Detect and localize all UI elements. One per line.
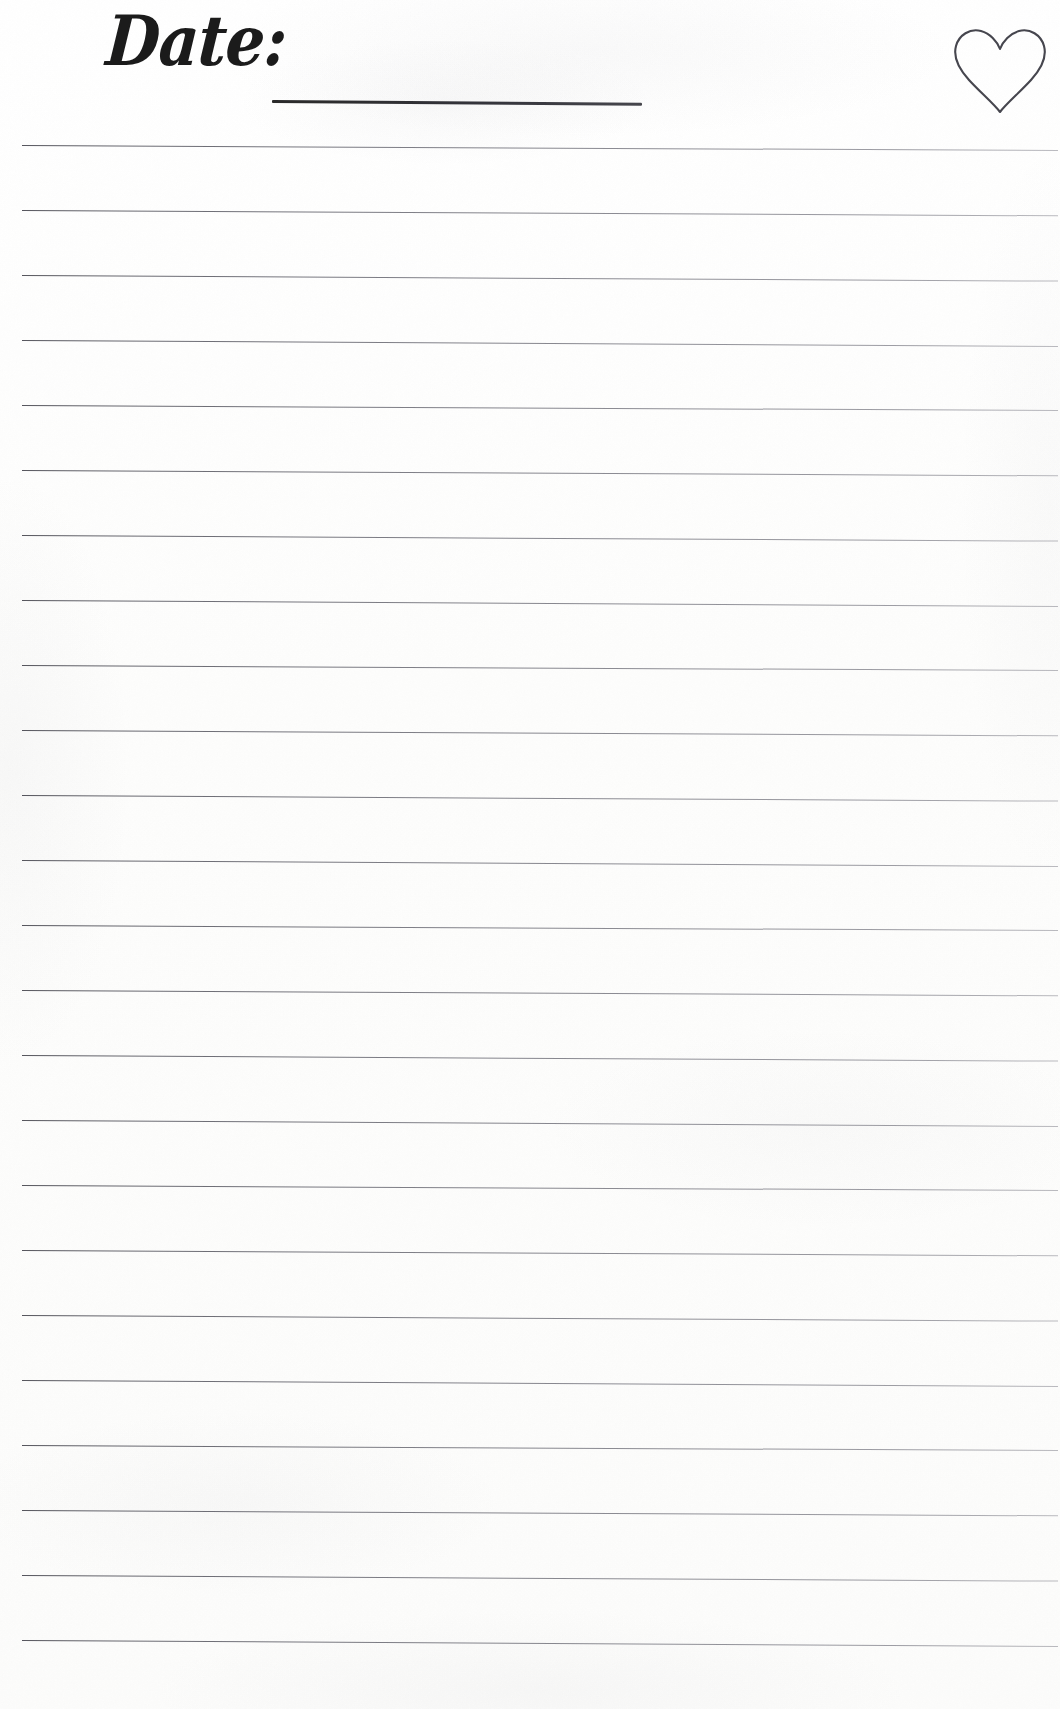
- writing-line[interactable]: [22, 1120, 1058, 1127]
- writing-line[interactable]: [22, 1510, 1058, 1516]
- writing-line[interactable]: [22, 860, 1058, 867]
- writing-line[interactable]: [22, 340, 1058, 347]
- writing-line[interactable]: [22, 210, 1058, 216]
- ruled-lines: [0, 0, 1060, 1709]
- writing-line[interactable]: [22, 990, 1058, 996]
- writing-line[interactable]: [22, 470, 1058, 476]
- writing-line[interactable]: [22, 1055, 1058, 1062]
- writing-line[interactable]: [22, 275, 1058, 282]
- writing-line[interactable]: [22, 145, 1058, 151]
- writing-line[interactable]: [22, 535, 1058, 542]
- writing-line[interactable]: [22, 730, 1058, 736]
- writing-line[interactable]: [22, 925, 1058, 931]
- writing-line[interactable]: [22, 1315, 1058, 1322]
- writing-line[interactable]: [22, 1185, 1058, 1191]
- writing-line[interactable]: [22, 665, 1058, 671]
- writing-line[interactable]: [22, 1640, 1058, 1647]
- writing-line[interactable]: [22, 795, 1058, 802]
- writing-line[interactable]: [22, 405, 1058, 411]
- journal-page: Date:: [0, 0, 1060, 1709]
- writing-line[interactable]: [22, 1380, 1058, 1387]
- writing-line[interactable]: [22, 1445, 1058, 1451]
- writing-line[interactable]: [22, 1250, 1058, 1256]
- writing-line[interactable]: [22, 600, 1058, 607]
- writing-line[interactable]: [22, 1575, 1058, 1582]
